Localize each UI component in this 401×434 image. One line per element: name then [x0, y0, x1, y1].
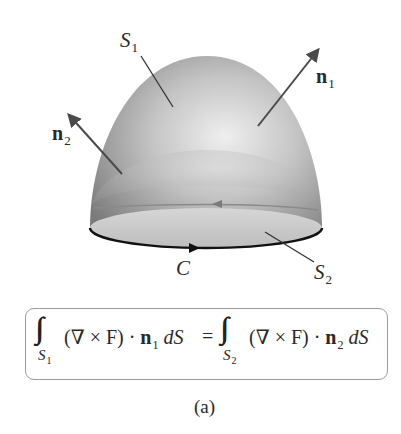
- rhs-integrand: (∇ × F) · n2 dS: [249, 325, 368, 349]
- label-n1: n1: [316, 65, 335, 88]
- label-n2: n2: [52, 122, 71, 145]
- equals-sign: =: [202, 325, 213, 348]
- lhs-integral-domain: S1: [38, 347, 52, 364]
- stokes-formula-box: ∫∫ S1 (∇ × F) · n1 dS = ∫∫ S2 (∇ × F) · …: [25, 308, 388, 380]
- label-curve-c: C: [176, 256, 190, 281]
- label-s2: S2: [314, 260, 332, 285]
- rhs-integral-domain: S2: [223, 347, 237, 364]
- lhs-integrand: (∇ × F) · n1 dS: [64, 325, 183, 349]
- figure-caption: (a): [194, 396, 215, 418]
- label-s1: S1: [120, 28, 138, 53]
